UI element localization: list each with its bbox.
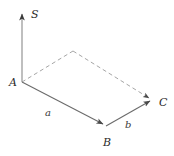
side-label-a: a — [45, 108, 51, 118]
edge-D-C-dashed — [73, 51, 149, 98]
vertex-label-a: A — [9, 77, 17, 88]
figure-canvas — [0, 0, 174, 156]
vertex-label-c: C — [159, 97, 167, 108]
axis-label-s: S — [31, 9, 39, 20]
side-label-b: b — [125, 120, 131, 130]
edge-A-D-dashed — [22, 51, 73, 82]
vector-parallelogram-figure: S A B C a b — [0, 0, 174, 156]
vertex-label-b: B — [103, 137, 111, 148]
edge-A-B-vector-a — [22, 82, 103, 124]
